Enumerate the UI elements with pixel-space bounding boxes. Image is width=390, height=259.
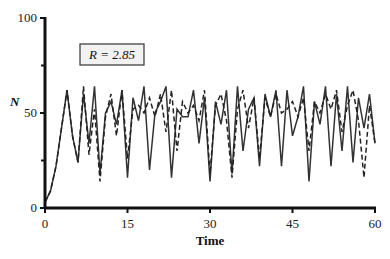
y-axis-ticks: 050100 <box>18 10 46 215</box>
series-line-dashed <box>45 86 375 202</box>
y-axis-title: N <box>9 94 20 109</box>
x-tick-label: 60 <box>369 216 382 231</box>
y-tick-label: 100 <box>18 10 38 25</box>
y-tick-label: 0 <box>31 200 38 215</box>
x-tick-label: 15 <box>121 216 134 231</box>
x-tick-label: 0 <box>42 216 49 231</box>
plot-area <box>45 86 375 202</box>
time-series-chart: 050100 015304560 N Time R = 2.85 <box>0 0 390 259</box>
x-axis-title: Time <box>196 233 225 248</box>
annotation-label: R = 2.85 <box>88 47 135 62</box>
x-axis-ticks: 015304560 <box>42 208 382 231</box>
annotation-box: R = 2.85 <box>80 44 144 65</box>
y-tick-label: 50 <box>24 105 37 120</box>
x-tick-label: 30 <box>204 216 217 231</box>
series-line-solid <box>45 86 375 202</box>
x-tick-label: 45 <box>286 216 299 231</box>
